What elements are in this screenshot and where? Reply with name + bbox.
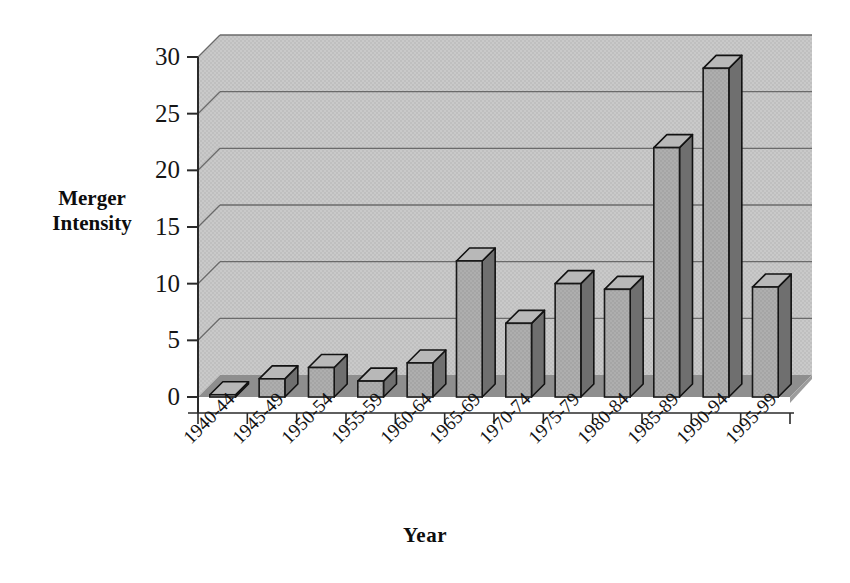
- y-axis-tick-label: 5: [134, 327, 180, 352]
- merger-intensity-bar-chart: 051015202530 Merger Intensity 1940-44194…: [0, 0, 850, 583]
- y-axis-title-line-2: Intensity: [22, 211, 162, 236]
- y-axis-tick-label: 30: [134, 44, 180, 69]
- bar-column: [309, 355, 348, 397]
- bar-column: [703, 55, 742, 397]
- bar-column: [506, 310, 545, 397]
- bar-column: [457, 248, 496, 397]
- y-axis-tick-label: 25: [134, 101, 180, 126]
- bar-column: [654, 135, 693, 397]
- y-axis-title-line-1: Merger: [22, 186, 162, 211]
- y-axis-tick-label: 0: [134, 384, 180, 409]
- chart-plot-area: [0, 0, 850, 583]
- y-axis-tick-label: 10: [134, 271, 180, 296]
- bar-column: [555, 271, 594, 397]
- bar-column: [407, 350, 446, 397]
- y-axis-title: Merger Intensity: [22, 186, 162, 236]
- bar-column: [605, 276, 644, 397]
- x-axis-title: Year: [0, 523, 850, 548]
- y-axis-tick-label: 20: [134, 157, 180, 182]
- bar-column: [753, 274, 792, 397]
